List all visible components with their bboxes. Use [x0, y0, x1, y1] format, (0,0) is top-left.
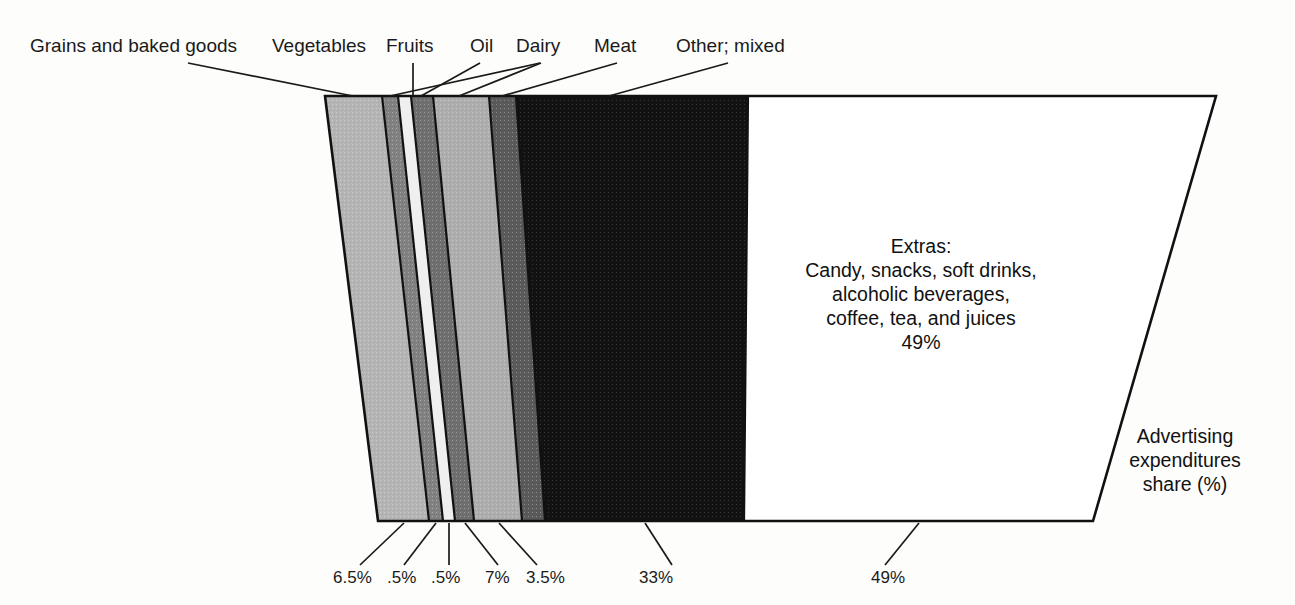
- axis-label-line-3: share (%): [1143, 473, 1228, 495]
- extras-line-2: Candy, snacks, soft drinks,: [805, 259, 1037, 281]
- axis-label-line-1: Advertising: [1137, 425, 1233, 447]
- bottom-leader-lines: [360, 523, 919, 565]
- advertising-expenditure-chart: Grains and baked goods Vegetables Fruits…: [0, 0, 1295, 605]
- percent-other-mixed: 49%: [871, 568, 905, 587]
- percent-meat: 33%: [639, 568, 673, 587]
- leader-pct-3-5: [499, 523, 537, 565]
- bottom-percent-labels: 6.5% .5% .5% 7% 3.5% 33% 49%: [333, 568, 905, 587]
- leader-pct-49: [885, 523, 919, 565]
- axis-label-line-2: expenditures: [1129, 449, 1241, 471]
- label-grains-and-baked-goods: Grains and baked goods: [30, 35, 237, 56]
- percent-vegetables: .5%: [387, 568, 416, 587]
- top-leader-lines: [188, 63, 728, 96]
- percent-dairy: 3.5%: [526, 568, 565, 587]
- label-vegetables: Vegetables: [272, 35, 366, 56]
- leader-pct-0-5-a: [404, 523, 436, 565]
- label-dairy: Dairy: [516, 35, 561, 56]
- leader-pct-7: [465, 523, 498, 565]
- leader-pct-33: [645, 523, 672, 565]
- leader-other-mixed: [609, 63, 728, 96]
- percent-oil: 7%: [485, 568, 510, 587]
- band-other-mixed-texture: [516, 96, 748, 521]
- label-meat: Meat: [594, 35, 637, 56]
- extras-line-4: coffee, tea, and juices: [826, 307, 1016, 329]
- leader-grains: [188, 63, 353, 96]
- axis-label-block: Advertising expenditures share (%): [1129, 425, 1241, 495]
- extras-line-3: alcoholic beverages,: [832, 283, 1010, 305]
- percent-fruits: .5%: [431, 568, 460, 587]
- percent-grains: 6.5%: [333, 568, 372, 587]
- extras-line-1: Extras:: [891, 235, 952, 257]
- chart-bands: [325, 96, 1216, 521]
- label-other-mixed: Other; mixed: [676, 35, 785, 56]
- label-oil: Oil: [470, 35, 493, 56]
- label-fruits: Fruits: [386, 35, 434, 56]
- extras-line-5: 49%: [901, 331, 940, 353]
- top-category-labels: Grains and baked goods Vegetables Fruits…: [30, 35, 785, 56]
- leader-pct-6-5: [360, 523, 404, 565]
